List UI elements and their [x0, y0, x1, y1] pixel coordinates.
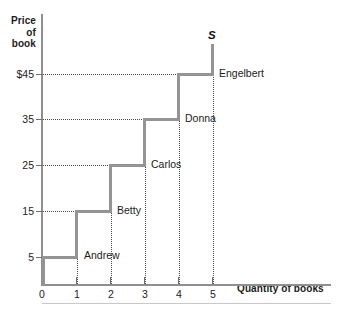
supply-curve-riser-2 [109, 164, 112, 213]
x-tick-label-2: 2 [101, 288, 121, 300]
supply-curve-riser-3 [143, 118, 146, 167]
y-tick-label-5: 5 [0, 251, 34, 263]
supply-curve-riser-4 [177, 73, 180, 121]
x-tick-label-1: 1 [67, 288, 87, 300]
y-tick-mark-35 [36, 119, 42, 120]
y-tick-mark-45 [36, 74, 42, 75]
guide-line-price-25 [43, 165, 112, 166]
y-axis-title: Price of book [0, 15, 36, 50]
supply-curve-step-engelbert [177, 73, 214, 76]
y-tick-mark-15 [36, 211, 42, 212]
supply-curve-label: S [208, 29, 216, 41]
seller-label-carlos: Carlos [151, 158, 181, 170]
seller-label-engelbert: Engelbert [219, 67, 264, 79]
supply-curve-riser-1 [75, 210, 78, 259]
guide-line-price-35 [43, 119, 146, 120]
supply-curve-step-andrew [42, 256, 78, 259]
drop-line-quantity-5 [213, 75, 214, 284]
x-tick-label-0: 0 [32, 288, 52, 300]
bottom-divider [42, 303, 331, 304]
x-tick-label-3: 3 [135, 288, 155, 300]
y-tick-label-45: $45 [0, 68, 34, 80]
y-axis-line [41, 14, 43, 286]
seller-label-donna: Donna [185, 112, 216, 124]
y-tick-label-15: 15 [0, 205, 34, 217]
seller-label-betty: Betty [117, 204, 141, 216]
x-axis-line [41, 284, 331, 286]
y-tick-label-25: 25 [0, 159, 34, 171]
guide-line-price-45 [43, 74, 180, 75]
y-tick-mark-25 [36, 165, 42, 166]
drop-line-quantity-3 [145, 166, 146, 284]
supply-curve-riser-origin [42, 257, 45, 285]
seller-label-andrew: Andrew [84, 249, 120, 261]
drop-line-quantity-1 [77, 258, 78, 284]
x-tick-label-4: 4 [169, 288, 189, 300]
supply-curve-step-betty [75, 210, 112, 213]
supply-curve-riser-5 [211, 44, 214, 74]
guide-line-price-15 [43, 211, 78, 212]
y-tick-label-35: 35 [0, 113, 34, 125]
supply-curve-step-donna [143, 118, 180, 121]
supply-curve-chart: Price of book Quantity of books $45 35 2… [0, 0, 343, 311]
drop-line-quantity-4 [179, 120, 180, 284]
supply-curve-step-carlos [109, 164, 146, 167]
drop-line-quantity-2 [111, 212, 112, 284]
x-tick-label-5: 5 [203, 288, 223, 300]
